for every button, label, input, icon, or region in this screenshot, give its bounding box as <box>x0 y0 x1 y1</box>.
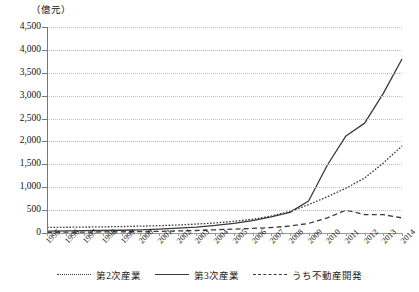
gridline <box>47 73 402 74</box>
y-axis-tick <box>42 27 47 28</box>
gridline <box>47 187 402 188</box>
gridline <box>47 27 402 28</box>
legend-item[interactable]: 第2次産業 <box>57 268 141 282</box>
chart-container: （億元） 4,5004,0003,5003,0002,5002,0001,500… <box>0 0 419 292</box>
gridline <box>47 50 402 51</box>
y-axis-tick-label: 2,000 <box>1 136 41 146</box>
y-axis-tick <box>42 50 47 51</box>
y-axis-tick-label: 0 <box>1 228 41 238</box>
y-axis-tick <box>42 164 47 165</box>
legend-label: 第2次産業 <box>96 268 141 282</box>
y-axis-tick-label: 3,000 <box>1 91 41 101</box>
gridline <box>47 141 402 142</box>
y-axis-tick-label: 4,000 <box>1 45 41 55</box>
y-axis-tick <box>42 210 47 211</box>
y-axis-tick <box>42 141 47 142</box>
y-axis-tick <box>42 73 47 74</box>
chart-legend: 第2次産業第3次産業うち不動産開発 <box>0 268 419 282</box>
y-axis-tick <box>42 96 47 97</box>
gridline <box>47 119 402 120</box>
legend-item[interactable]: 第3次産業 <box>155 268 239 282</box>
legend-swatch-dotted <box>57 274 91 275</box>
legend-swatch-solid <box>155 274 189 275</box>
y-axis-tick <box>42 233 47 234</box>
legend-item[interactable]: うち不動産開発 <box>253 268 362 282</box>
gridline <box>47 210 402 211</box>
y-axis-line <box>47 27 48 233</box>
series-line-solid <box>47 59 402 231</box>
y-axis-tick-labels: 4,5004,0003,5003,0002,5002,0001,5001,000… <box>0 0 41 292</box>
y-axis-tick-label: 2,500 <box>1 114 41 124</box>
legend-label: うち不動産開発 <box>292 268 362 282</box>
y-axis-tick-label: 500 <box>1 205 41 215</box>
y-axis-tick-label: 1,000 <box>1 182 41 192</box>
y-axis-tick-label: 3,500 <box>1 68 41 78</box>
plot-area <box>47 27 402 233</box>
gridline <box>47 96 402 97</box>
legend-label: 第3次産業 <box>194 268 239 282</box>
legend-swatch-dashed <box>253 274 287 275</box>
y-axis-tick-label: 1,500 <box>1 159 41 169</box>
y-axis-tick <box>42 119 47 120</box>
y-axis-tick-label: 4,500 <box>1 22 41 32</box>
series-lines <box>47 27 402 233</box>
y-axis-tick <box>42 187 47 188</box>
gridline <box>47 164 402 165</box>
